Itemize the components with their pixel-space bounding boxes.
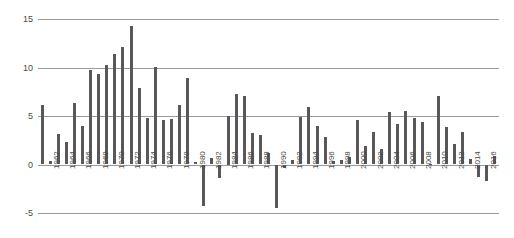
x-tick-label: 1988 [263, 151, 271, 169]
y-tick-label: 10 [23, 63, 33, 72]
x-tick-label: 1966 [85, 151, 93, 169]
x-tick-label: 2016 [490, 151, 498, 169]
x-tick-label: 1976 [166, 151, 174, 169]
bar-chart: 151050-5 1962196419661968197019721974197… [0, 0, 514, 238]
x-tick-label: 2010 [441, 151, 449, 169]
x-tick-label: 1974 [150, 151, 158, 169]
gridline--5 [38, 213, 499, 214]
x-tick-label: 2014 [474, 151, 482, 169]
x-axis-labels: 1962196419661968197019721974197619781980… [38, 19, 499, 213]
x-tick-label: 1980 [199, 151, 207, 169]
x-tick-label: 1990 [280, 151, 288, 169]
x-tick-label: 1992 [296, 151, 304, 169]
x-tick-label: 2002 [377, 151, 385, 169]
y-tick-label: -5 [25, 209, 33, 218]
x-tick-label: 1998 [344, 151, 352, 169]
x-tick-label: 1996 [328, 151, 336, 169]
y-tick-label: 5 [28, 112, 33, 121]
x-tick-label: 1962 [53, 151, 61, 169]
plot-area: 151050-5 1962196419661968197019721974197… [38, 19, 499, 213]
y-tick-label: 0 [28, 160, 33, 169]
x-tick-label: 1970 [118, 151, 126, 169]
x-tick-label: 2006 [409, 151, 417, 169]
x-tick-label: 2008 [425, 151, 433, 169]
x-tick-label: 1968 [102, 151, 110, 169]
x-tick-label: 2012 [458, 151, 466, 169]
x-tick-label: 1982 [215, 151, 223, 169]
x-tick-label: 1964 [69, 151, 77, 169]
x-tick-label: 1986 [247, 151, 255, 169]
x-tick-label: 1978 [183, 151, 191, 169]
x-tick-label: 2004 [393, 151, 401, 169]
x-tick-label: 1984 [231, 151, 239, 169]
x-tick-label: 1972 [134, 151, 142, 169]
x-tick-label: 2000 [360, 151, 368, 169]
y-tick-label: 15 [23, 15, 33, 24]
x-tick-label: 1994 [312, 151, 320, 169]
